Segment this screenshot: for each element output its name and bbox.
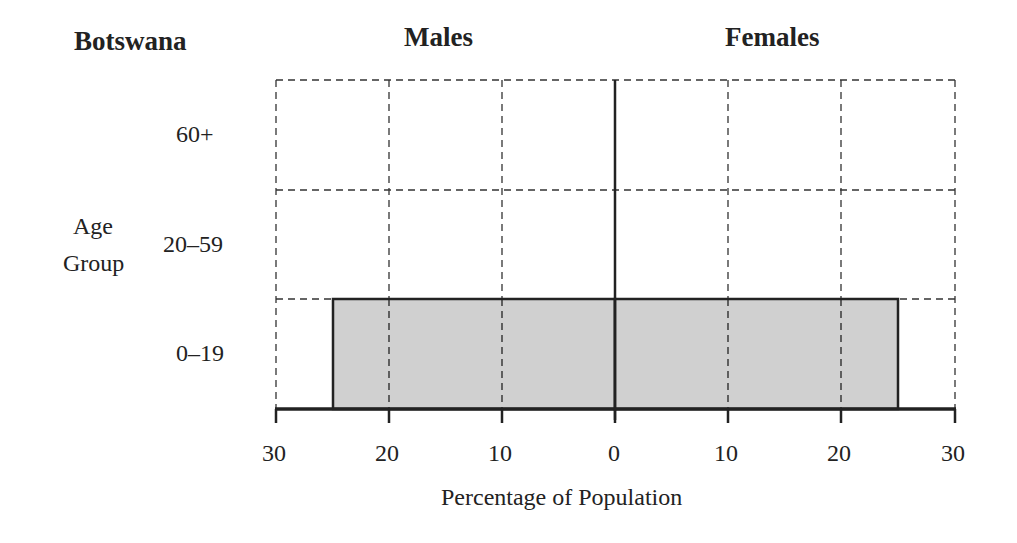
- x-tick-label: 30: [262, 440, 286, 467]
- bar-females-0-19: [615, 299, 898, 409]
- x-tick-label: 20: [827, 440, 851, 467]
- x-tick-label: 30: [941, 440, 965, 467]
- x-axis-label: Percentage of Population: [441, 484, 682, 511]
- x-tick-label: 10: [488, 440, 512, 467]
- x-tick-label: 10: [714, 440, 738, 467]
- x-ticks: [276, 409, 955, 423]
- bar-males-0-19: [333, 299, 615, 409]
- x-tick-label: 0: [608, 440, 620, 467]
- x-tick-label: 20: [375, 440, 399, 467]
